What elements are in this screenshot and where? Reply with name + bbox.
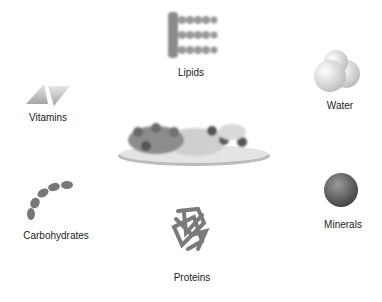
vitamins-label: Vitamins	[29, 112, 67, 123]
carbohydrates-chain-icon	[24, 178, 82, 222]
food-plate-image	[116, 118, 270, 168]
water-molecule-icon	[310, 48, 364, 96]
minerals-sphere-icon	[321, 170, 361, 210]
lipids-icon	[160, 10, 230, 60]
minerals-label: Minerals	[324, 219, 362, 230]
proteins-label: Proteins	[174, 272, 211, 283]
carbohydrates-label: Carbohydrates	[23, 230, 89, 241]
water-label: Water	[327, 100, 353, 111]
vitamins-icon	[22, 80, 74, 108]
proteins-icon	[168, 205, 212, 255]
lipids-label: Lipids	[178, 67, 204, 78]
